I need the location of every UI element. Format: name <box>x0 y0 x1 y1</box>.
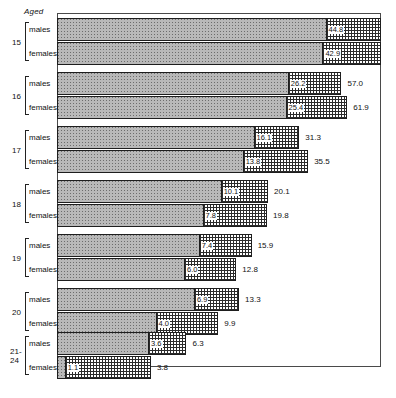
log-scale-stacked-bar-chart: Aged 44.8males42.9females26.257.0males25… <box>0 0 396 398</box>
x-axis <box>0 0 396 398</box>
